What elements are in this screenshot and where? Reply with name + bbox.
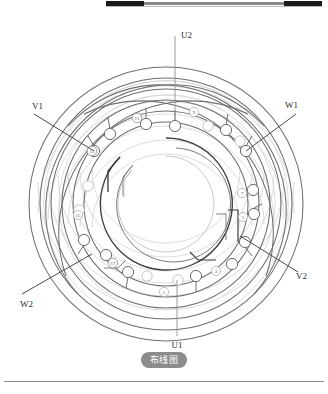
top-rule-shadow — [106, 6, 322, 7]
node-stub — [126, 277, 128, 288]
coil-node[interactable] — [235, 136, 245, 146]
top-rule — [0, 0, 328, 14]
coil-node[interactable] — [169, 120, 180, 131]
terminal-lead-line — [246, 114, 296, 151]
slot-marker: 5 — [238, 212, 247, 221]
winding-diagram: 1 3 5 7 9 — [0, 14, 328, 362]
terminal-V1[interactable]: V1 — [32, 101, 94, 151]
faint-arc-10 — [68, 173, 264, 271]
coil-node[interactable] — [173, 275, 183, 285]
coil-node[interactable] — [140, 118, 151, 129]
caption-badge: 布线图 — [141, 352, 188, 368]
coil-node[interactable] — [104, 128, 115, 139]
top-rule-right-cap — [284, 1, 322, 6]
slot-marker: 9 — [189, 107, 198, 116]
bottom-divider — [4, 381, 324, 382]
slot-number-label: 15 — [76, 213, 82, 218]
slot-marker: 3 — [211, 266, 220, 275]
slot-marker: 11 — [132, 113, 142, 123]
coil-node[interactable] — [203, 121, 213, 131]
terminal-label: V1 — [32, 101, 43, 111]
core-ring-inner — [118, 156, 214, 252]
coil-node[interactable] — [122, 266, 133, 277]
terminal-U1[interactable]: U1 — [172, 280, 183, 350]
slot-marker: 7 — [237, 188, 246, 197]
terminal-label: V2 — [296, 271, 307, 281]
terminal-label: U1 — [172, 340, 183, 350]
slot-marker: 17 — [108, 258, 118, 268]
coil-node[interactable] — [142, 271, 152, 281]
stator-core — [100, 138, 238, 270]
slot-number-label: 11 — [135, 116, 140, 121]
terminal-label: W2 — [20, 299, 33, 309]
coil-node[interactable] — [220, 124, 231, 135]
coil-node[interactable] — [83, 181, 93, 191]
core-ring-outer-notch — [108, 157, 120, 192]
terminal-label: W1 — [285, 100, 298, 110]
coil-node[interactable] — [226, 258, 237, 269]
top-rule-svg — [0, 0, 328, 14]
node-stub — [78, 245, 84, 254]
node-stub — [108, 118, 110, 129]
coil-node[interactable] — [190, 270, 201, 281]
slot-marker: 1 — [159, 287, 168, 296]
faint-arc-12 — [92, 169, 240, 243]
faint-arc-6 — [92, 154, 240, 228]
top-rule-left-cap — [106, 1, 144, 6]
coil-node[interactable] — [248, 208, 259, 219]
slot-marker: 15 — [73, 210, 82, 219]
terminal-label: U2 — [181, 30, 192, 40]
caption-row: 布线图 — [0, 350, 328, 370]
diagram-page: 1 3 5 7 9 — [0, 0, 328, 394]
slot-number-label: 17 — [111, 261, 117, 266]
winding-diagram-svg: 1 3 5 7 9 — [0, 14, 328, 362]
coil-node[interactable] — [78, 234, 89, 245]
terminal-lead-line — [22, 254, 92, 294]
coil-node[interactable] — [247, 184, 258, 195]
faint-arc-3 — [58, 114, 274, 222]
